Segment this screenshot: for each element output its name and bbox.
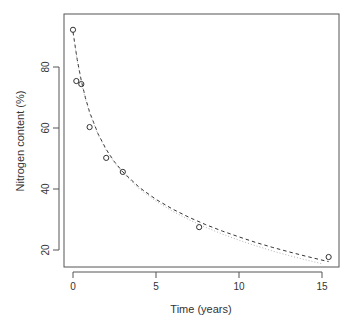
x-axis-label: Time (years) [170,303,231,315]
data-point [197,225,202,230]
data-point [104,155,109,160]
x-tick-label: 10 [233,281,245,292]
data-point [87,124,92,129]
x-axis: 051015 [70,272,328,292]
y-tick-label: 40 [40,183,51,195]
data-point [70,27,75,32]
scatter-plot: 051015 20406080 Time (years) Nitrogen co… [0,0,360,329]
data-points [70,27,331,259]
y-axis-label: Nitrogen content (%) [14,91,26,192]
data-point [326,254,331,259]
y-tick-label: 20 [40,244,51,256]
x-tick-label: 0 [70,281,76,292]
y-tick-label: 60 [40,122,51,134]
y-tick-label: 80 [40,61,51,73]
data-point [74,78,79,83]
x-tick-label: 15 [316,281,328,292]
plot-area [64,14,339,267]
dashed-fit-line [73,32,329,262]
x-tick-label: 5 [153,281,159,292]
y-axis: 20406080 [40,61,59,256]
